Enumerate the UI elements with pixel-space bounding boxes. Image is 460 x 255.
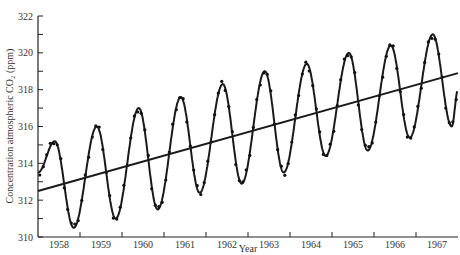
x-tick-label: 1967 (427, 239, 447, 250)
y-tick-label: 310 (18, 232, 33, 243)
y-tick-label: 312 (18, 195, 33, 206)
trend-line (38, 73, 458, 191)
x-tick-label: 1959 (91, 239, 111, 250)
y-tick-label: 318 (18, 84, 33, 95)
x-tick-label: 1963 (259, 239, 279, 250)
x-tick-label: 1966 (385, 239, 405, 250)
y-tick-label: 320 (18, 47, 33, 58)
x-tick-label: 1964 (301, 239, 321, 250)
x-tick-label: 1960 (133, 239, 153, 250)
x-axis-title: Year (239, 243, 258, 254)
y-axis: 310312314316318320322 (18, 11, 43, 243)
co2-chart: 310312314316318320322 195819591960196119… (0, 0, 460, 255)
y-tick-label: 316 (18, 121, 33, 132)
y-tick-label: 314 (18, 158, 33, 169)
x-tick-label: 1962 (217, 239, 237, 250)
y-axis-title: Concentration atmospheric CO₂ (ppm) (4, 49, 16, 204)
x-tick-label: 1958 (49, 239, 69, 250)
x-tick-label: 1965 (343, 239, 363, 250)
x-tick-label: 1961 (175, 239, 195, 250)
y-tick-label: 322 (18, 11, 33, 22)
